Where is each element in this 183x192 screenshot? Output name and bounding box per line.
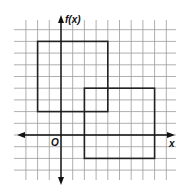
x-axis-label: x (169, 138, 175, 149)
origin-label: O (51, 137, 59, 148)
coordinate-grid (0, 0, 183, 192)
y-axis-label: f(x) (65, 14, 81, 25)
x-axis-left-arrow-icon (17, 132, 25, 138)
y-axis-down-arrow-icon (58, 177, 64, 185)
y-axis-up-arrow-icon (58, 15, 64, 23)
